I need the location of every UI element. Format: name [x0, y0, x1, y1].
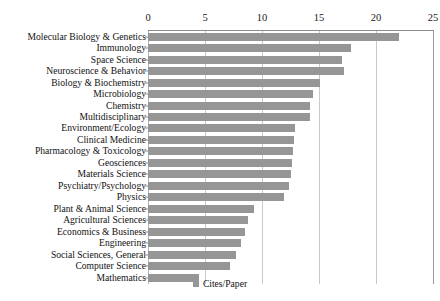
chart-row: Pharmacology & Toxicology: [0, 146, 440, 157]
bar: [148, 113, 310, 121]
bar: [148, 33, 399, 41]
category-label: Computer Science: [75, 261, 146, 271]
category-label: Psychiatry/Psychology: [58, 181, 146, 191]
x-axis-tick-label: 10: [257, 12, 268, 24]
chart-row: Environment/Ecology: [0, 123, 440, 134]
bar: [148, 90, 313, 98]
bar: [148, 79, 320, 87]
chart-row: Engineering: [0, 237, 440, 248]
category-label: Neuroscience & Behavior: [46, 66, 146, 76]
category-label: Microbiology: [93, 89, 146, 99]
chart-row: Immunology: [0, 42, 440, 53]
category-label: Plant & Animal Science: [54, 204, 146, 214]
bar: [148, 193, 284, 201]
bar: [148, 239, 241, 247]
bar: [148, 159, 292, 167]
bar-chart: 0510152025 Molecular Biology & GeneticsI…: [0, 0, 440, 301]
category-label: Immunology: [96, 43, 146, 53]
chart-row: Social Sciences, General: [0, 249, 440, 260]
category-label: Agricultural Sciences: [63, 215, 146, 225]
category-label: Engineering: [99, 238, 146, 248]
bar: [148, 147, 293, 155]
category-label: Space Science: [91, 55, 146, 65]
bar: [148, 67, 344, 75]
chart-row: Geosciences: [0, 157, 440, 168]
chart-row: Microbiology: [0, 88, 440, 99]
legend-swatch-cites-per-paper: [193, 281, 199, 287]
bar: [148, 182, 289, 190]
bar: [148, 56, 342, 64]
chart-row: Agricultural Sciences: [0, 215, 440, 226]
bar: [148, 44, 351, 52]
chart-row: Economics & Business: [0, 226, 440, 237]
bar: [148, 170, 291, 178]
chart-row: Materials Science: [0, 169, 440, 180]
category-label: Biology & Biochemistry: [51, 78, 146, 88]
category-label: Chemistry: [106, 101, 146, 111]
legend-label-cites-per-paper: Cites/Paper: [203, 278, 247, 289]
chart-row: Psychiatry/Psychology: [0, 180, 440, 191]
bar: [148, 124, 295, 132]
chart-row: Biology & Biochemistry: [0, 77, 440, 88]
x-axis-tick-label: 0: [145, 12, 150, 24]
x-axis-tick-label: 15: [314, 12, 325, 24]
bar: [148, 228, 245, 236]
category-label: Environment/Ecology: [61, 123, 146, 133]
category-label: Geosciences: [98, 158, 146, 168]
x-axis-tick-label: 5: [202, 12, 207, 24]
category-label: Molecular Biology & Genetics: [27, 32, 146, 42]
chart-row: Space Science: [0, 54, 440, 65]
x-axis-tick-label: 25: [428, 12, 439, 24]
chart-row: Plant & Animal Science: [0, 203, 440, 214]
category-label: Clinical Medicine: [77, 135, 146, 145]
category-label: Economics & Business: [57, 227, 146, 237]
bar: [148, 262, 230, 270]
bar: [148, 205, 254, 213]
chart-row: Molecular Biology & Genetics: [0, 31, 440, 42]
chart-plot-area: Molecular Biology & GeneticsImmunologySp…: [0, 31, 440, 283]
bar: [148, 136, 294, 144]
category-label: Pharmacology & Toxicology: [35, 146, 146, 156]
chart-row: Physics: [0, 192, 440, 203]
category-label: Social Sciences, General: [51, 250, 146, 260]
chart-legend: Cites/Paper: [0, 278, 440, 289]
chart-row: Clinical Medicine: [0, 134, 440, 145]
chart-row: Multidisciplinary: [0, 111, 440, 122]
x-axis-tick-label: 20: [371, 12, 382, 24]
bar: [148, 102, 310, 110]
chart-row: Chemistry: [0, 100, 440, 111]
category-label: Multidisciplinary: [79, 112, 146, 122]
chart-row: Computer Science: [0, 260, 440, 271]
category-label: Physics: [117, 192, 146, 202]
bar: [148, 216, 248, 224]
bar: [148, 251, 236, 259]
chart-row: Neuroscience & Behavior: [0, 65, 440, 76]
category-label: Materials Science: [78, 169, 146, 179]
